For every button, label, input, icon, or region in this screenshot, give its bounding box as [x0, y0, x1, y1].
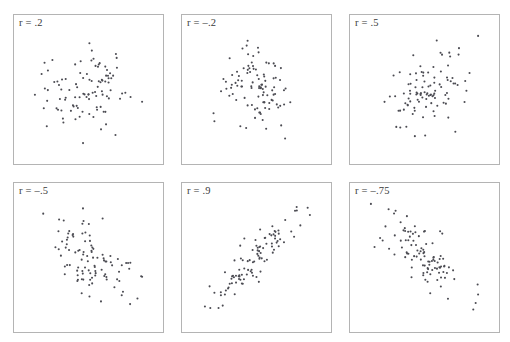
- scatter-point: [102, 94, 104, 96]
- scatter-point: [404, 256, 406, 258]
- scatter-point: [76, 270, 78, 272]
- scatter-point: [220, 90, 222, 92]
- scatter-point: [242, 283, 244, 285]
- scatter-point: [86, 96, 88, 98]
- scatter-point: [285, 88, 287, 90]
- scatter-point: [204, 305, 206, 307]
- scatter-point: [94, 270, 96, 272]
- scatter-point: [253, 68, 255, 70]
- scatter-point: [260, 252, 262, 254]
- scatter-point: [237, 79, 239, 81]
- scatter-point: [252, 249, 254, 251]
- scatter-point: [77, 266, 79, 268]
- scatter-point: [81, 223, 83, 225]
- scatter-point: [440, 285, 442, 287]
- scatter-point: [230, 87, 232, 89]
- scatter-point: [124, 92, 126, 94]
- scatter-point: [440, 71, 442, 73]
- scatter-point: [265, 62, 267, 64]
- scatter-point: [477, 35, 479, 37]
- scatter-point: [113, 286, 115, 288]
- scatter-point: [83, 220, 85, 222]
- scatter-point: [289, 101, 291, 103]
- scatter-point: [77, 274, 79, 276]
- scatter-point: [61, 79, 63, 81]
- scatter-point: [477, 283, 479, 285]
- scatterplot-panel-5: r = .9: [181, 182, 332, 333]
- panel-label-correlation: r = .9: [187, 185, 211, 197]
- scatter-point: [96, 109, 98, 111]
- scatter-point: [271, 243, 273, 245]
- scatter-point: [447, 79, 449, 81]
- scatterplot-panel-1: r = .2: [13, 14, 164, 165]
- scatter-point: [243, 268, 245, 270]
- scatter-point: [439, 230, 441, 232]
- scatter-point: [136, 297, 138, 299]
- scatter-point: [433, 77, 435, 79]
- scatter-point: [458, 47, 460, 49]
- scatter-point: [252, 261, 254, 263]
- scatter-point: [274, 93, 276, 95]
- scatter-point: [84, 240, 86, 242]
- scatter-point: [408, 98, 410, 100]
- panel-label-correlation: r = –.5: [19, 185, 48, 197]
- scatter-point: [235, 282, 237, 284]
- scatter-point: [100, 106, 102, 108]
- scatter-point: [420, 250, 422, 252]
- scatter-point: [255, 245, 257, 247]
- scatter-point: [446, 92, 448, 94]
- scatter-point: [225, 289, 227, 291]
- scatter-point: [241, 274, 243, 276]
- scatter-point: [439, 258, 441, 260]
- scatter-point: [382, 239, 384, 241]
- scatter-point: [110, 77, 112, 79]
- scatter-point: [116, 67, 118, 69]
- scatter-point: [68, 249, 70, 251]
- scatter-point: [235, 99, 237, 101]
- scatter-point: [423, 255, 425, 257]
- scatter-point: [296, 209, 298, 211]
- scatter-point: [47, 89, 49, 91]
- scatter-point: [444, 94, 446, 96]
- scatter-point: [90, 250, 92, 252]
- scatter-point: [115, 53, 117, 55]
- scatter-point: [247, 104, 249, 106]
- scatter-point: [239, 125, 241, 127]
- scatter-point: [418, 235, 420, 237]
- scatter-point: [82, 142, 84, 144]
- scatter-point: [436, 268, 438, 270]
- scatter-point: [243, 237, 245, 239]
- scatter-point: [418, 252, 420, 254]
- panel-label-correlation: r = –.75: [355, 185, 390, 197]
- scatter-point: [101, 269, 103, 271]
- scatter-point: [83, 251, 85, 253]
- scatter-point: [247, 40, 249, 42]
- scatter-point: [442, 258, 444, 260]
- scatter-point: [91, 277, 93, 279]
- scatter-point: [410, 83, 412, 85]
- scatter-point: [464, 80, 466, 82]
- scatter-point: [388, 208, 390, 210]
- scatter-point: [447, 98, 449, 100]
- scatter-point: [222, 305, 224, 307]
- scatter-point: [433, 93, 435, 95]
- scatter-point: [265, 128, 267, 130]
- scatter-point: [58, 218, 60, 220]
- scatter-point: [404, 102, 406, 104]
- scatter-point: [265, 243, 267, 245]
- scatter-point: [99, 81, 101, 83]
- scatter-point: [440, 277, 442, 279]
- scatter-point: [273, 77, 275, 79]
- scatter-point: [416, 256, 418, 258]
- scatter-point: [41, 73, 43, 75]
- scatter-point: [79, 72, 81, 74]
- scatter-point: [60, 109, 62, 111]
- scatter-point: [399, 126, 401, 128]
- scatter-point: [57, 230, 59, 232]
- scatter-point: [228, 95, 230, 97]
- scatter-point: [410, 276, 412, 278]
- scatter-point: [121, 264, 123, 266]
- scatter-point: [116, 57, 118, 59]
- scatter-point: [238, 278, 240, 280]
- scatter-point: [427, 71, 429, 73]
